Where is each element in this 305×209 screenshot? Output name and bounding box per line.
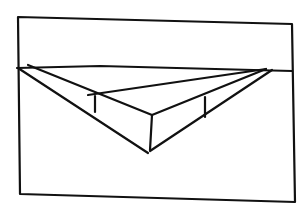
perspective-sketch-canvas: Hand-drawn two-point perspective sketch …: [0, 0, 305, 209]
sketch-svg: [0, 0, 305, 209]
frame-border: [18, 17, 295, 202]
vp-left-to-front-top-line: [28, 65, 152, 115]
vp-right-to-front-top-line: [152, 69, 266, 115]
front-vertical-edge: [150, 115, 152, 150]
vp-right-to-front-bottom-line: [150, 70, 272, 151]
vp-left-to-front-bottom-line: [18, 68, 148, 153]
